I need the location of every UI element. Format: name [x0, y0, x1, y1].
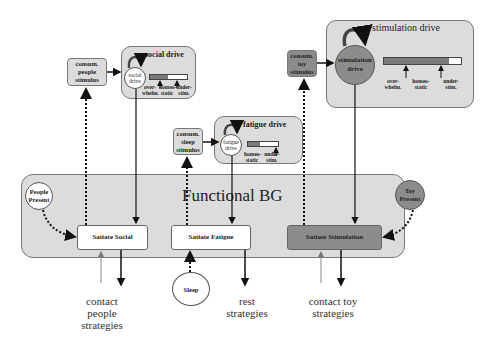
connector-arrows [0, 0, 489, 347]
